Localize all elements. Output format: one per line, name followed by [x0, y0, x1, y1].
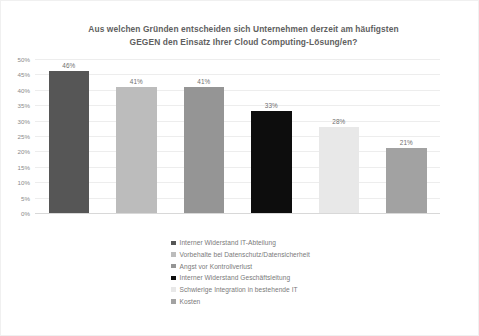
y-axis-tick-label: 45%	[18, 71, 30, 78]
chart-container: Aus welchen Gründen entscheiden sich Unt…	[0, 0, 479, 336]
y-axis-tick-label: 15%	[18, 163, 30, 170]
legend-item[interactable]: Kosten	[171, 295, 401, 307]
legend-item-label: Kosten	[180, 298, 201, 305]
chart-title: Aus welchen Gründen entscheiden sich Unt…	[56, 23, 431, 49]
legend-item[interactable]: Vorbehalte bei Datenschutz/Datensicherhe…	[171, 249, 401, 261]
legend-swatch	[171, 276, 176, 281]
bar-value-label: 41%	[184, 78, 225, 85]
bar-value-label: 46%	[49, 62, 90, 69]
legend-item-label: Vorbehalte bei Datenschutz/Datensicherhe…	[180, 251, 310, 258]
x-axis-line	[35, 213, 440, 214]
bar[interactable]	[319, 127, 360, 213]
bar[interactable]	[116, 87, 157, 213]
bar-group[interactable]: 28%	[319, 59, 360, 213]
bar-group[interactable]: 33%	[251, 59, 292, 213]
bar-value-label: 28%	[319, 118, 360, 125]
y-axis-tick-label: 20%	[18, 148, 30, 155]
legend-swatch	[171, 252, 176, 257]
plot-area: 50%45%40%35%30%25%20%15%10%5%0% 46%41%41…	[35, 59, 440, 214]
y-axis-tick-label: 25%	[18, 133, 30, 140]
bar-group[interactable]: 46%	[49, 59, 90, 213]
legend-item-label: Interner Widerstand IT-Abteilung	[180, 239, 277, 246]
chart-title-line-1: Aus welchen Gründen entscheiden sich Unt…	[56, 23, 431, 36]
bar-group[interactable]: 41%	[184, 59, 225, 213]
legend-swatch	[171, 287, 176, 292]
y-axis-tick-label: 30%	[18, 117, 30, 124]
legend-swatch	[171, 241, 176, 246]
bar-series: 46%41%41%33%28%21%	[35, 59, 440, 213]
legend-item[interactable]: Angst vor Kontrollverlust	[171, 260, 401, 272]
bar[interactable]	[251, 111, 292, 213]
legend-item-label: Angst vor Kontrollverlust	[180, 263, 253, 270]
y-axis-tick-label: 10%	[18, 179, 30, 186]
legend-swatch	[171, 299, 176, 304]
bar-group[interactable]: 21%	[386, 59, 427, 213]
bar[interactable]	[386, 148, 427, 213]
y-axis-tick-label: 40%	[18, 86, 30, 93]
y-axis-tick-label: 0%	[21, 210, 30, 217]
bar-group[interactable]: 41%	[116, 59, 157, 213]
chart-legend: Interner Widerstand IT-AbteilungVorbehal…	[171, 237, 401, 307]
y-axis-tick-label: 5%	[21, 194, 30, 201]
bar[interactable]	[184, 87, 225, 213]
y-axis-tick-label: 35%	[18, 102, 30, 109]
legend-item[interactable]: Schwierige Integration in bestehende IT	[171, 284, 401, 296]
legend-item[interactable]: Interner Widerstand Geschäftsleitung	[171, 272, 401, 284]
y-axis-tick-label: 50%	[18, 56, 30, 63]
bar-value-label: 41%	[116, 78, 157, 85]
legend-item-label: Interner Widerstand Geschäftsleitung	[180, 274, 291, 281]
legend-item[interactable]: Interner Widerstand IT-Abteilung	[171, 237, 401, 249]
bar-value-label: 33%	[251, 102, 292, 109]
legend-item-label: Schwierige Integration in bestehende IT	[180, 286, 298, 293]
bar[interactable]	[49, 71, 90, 213]
legend-swatch	[171, 264, 176, 269]
chart-title-line-2: GEGEN den Einsatz Ihrer Cloud Computing-…	[56, 36, 431, 49]
bar-value-label: 21%	[386, 139, 427, 146]
